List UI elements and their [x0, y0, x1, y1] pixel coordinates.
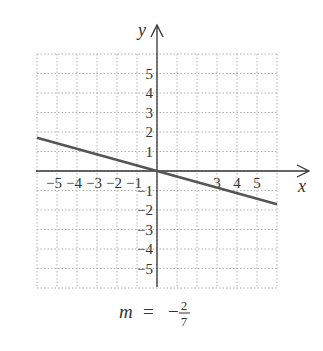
y-tick-label: 1 [146, 144, 154, 160]
x-tick-label: −3 [86, 175, 102, 191]
slope-equals: = [143, 301, 154, 322]
x-axis-label: x [297, 176, 306, 196]
slope-denominator: 7 [181, 314, 188, 329]
x-tick-label: 4 [233, 175, 241, 191]
y-tick-label: 4 [146, 85, 154, 101]
y-tick-label: −2 [137, 202, 153, 218]
x-tick-label: −2 [106, 175, 122, 191]
x-tick-label: −4 [66, 175, 82, 191]
slope-var: m [119, 301, 133, 322]
x-tick-label: −5 [46, 175, 62, 191]
y-tick-label: −3 [137, 222, 153, 238]
x-tick-labels: −5−4−3−2−1345 [46, 175, 261, 191]
y-tick-label: 5 [146, 66, 154, 82]
slope-numerator: 2 [181, 298, 188, 313]
y-tick-label: 2 [146, 124, 154, 140]
slope-annotation: m = − 2 7 [119, 298, 190, 329]
y-axis-label: y [136, 20, 146, 40]
y-tick-label: 3 [146, 105, 154, 121]
y-tick-label: −1 [137, 183, 153, 199]
x-tick-label: 5 [253, 175, 261, 191]
slope-sign: − [168, 301, 179, 322]
y-tick-label: −5 [137, 261, 153, 277]
y-tick-label: −4 [137, 241, 153, 257]
coordinate-plane: x y −5−4−3−2−1345 54321−1−2−3−4−5 m = − … [0, 0, 323, 351]
